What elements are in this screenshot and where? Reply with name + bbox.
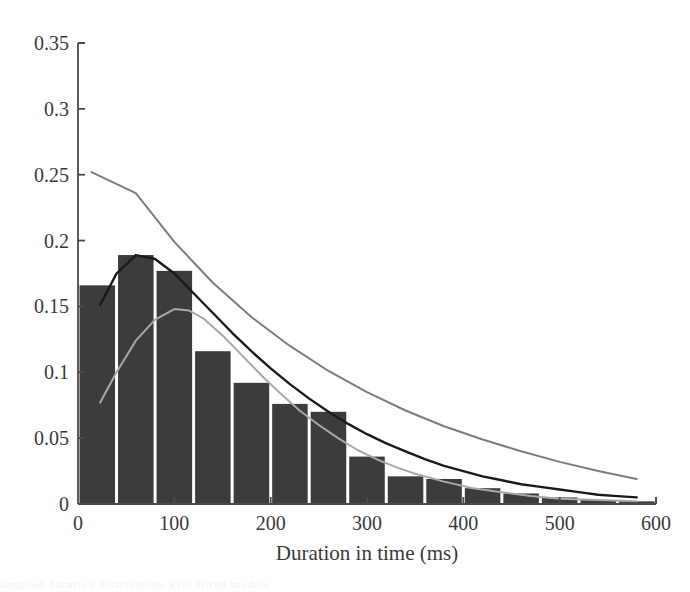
histogram-bar xyxy=(272,404,308,504)
faint-caption: sampled duration distribution with fitte… xyxy=(0,578,690,592)
histogram-bar xyxy=(118,255,154,504)
histogram-bar xyxy=(234,383,270,504)
histogram-chart: 00.050.10.150.20.250.30.3501002003004005… xyxy=(0,0,690,592)
x-tick-label: 200 xyxy=(256,512,286,534)
x-tick-label: 100 xyxy=(159,512,189,534)
y-tick-label: 0 xyxy=(59,493,69,515)
x-tick-label: 500 xyxy=(545,512,575,534)
histogram-bar xyxy=(426,479,462,504)
histogram-bar xyxy=(311,412,347,504)
histogram-bar xyxy=(349,457,385,504)
histogram-bar xyxy=(195,351,231,504)
y-tick-label: 0.2 xyxy=(44,230,69,252)
y-tick-label: 0.05 xyxy=(34,427,69,449)
histogram-bar xyxy=(388,476,424,504)
figure-container: 00.050.10.150.20.250.30.3501002003004005… xyxy=(0,0,690,592)
y-tick-label: 0.35 xyxy=(34,32,69,54)
histogram-bar xyxy=(157,271,193,504)
x-tick-label: 600 xyxy=(641,512,671,534)
y-tick-label: 0.3 xyxy=(44,98,69,120)
x-tick-label: 0 xyxy=(73,512,83,534)
y-tick-label: 0.1 xyxy=(44,361,69,383)
x-tick-label: 400 xyxy=(448,512,478,534)
x-axis-title: Duration in time (ms) xyxy=(276,541,459,565)
y-tick-label: 0.25 xyxy=(34,164,69,186)
histogram-bar xyxy=(80,285,116,504)
x-tick-label: 300 xyxy=(352,512,382,534)
y-tick-label: 0.15 xyxy=(34,295,69,317)
